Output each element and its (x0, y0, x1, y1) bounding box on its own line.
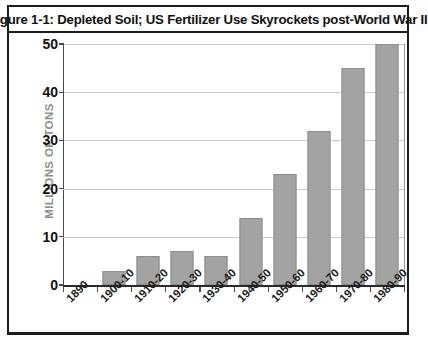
x-tick-mark-5 (234, 287, 235, 292)
y-tick-label-20: 20 (28, 182, 58, 196)
bars-group (63, 44, 404, 285)
bar-slot (63, 44, 97, 285)
bar-slot (302, 44, 336, 285)
y-tick-label-wrap: 10 (26, 230, 58, 244)
x-tick-mark-4 (199, 287, 200, 292)
y-tick-label-30: 30 (28, 133, 58, 147)
bar-1950-60[interactable] (273, 174, 296, 285)
bar-slot (370, 44, 404, 285)
x-tick-mark-6 (268, 287, 269, 292)
y-tick-label-40: 40 (28, 85, 58, 99)
y-tick-label-10: 10 (28, 230, 58, 244)
bar-1980-90[interactable] (375, 44, 398, 285)
x-tick-mark-9 (370, 287, 371, 292)
y-tick-label-wrap: 20 (26, 182, 58, 196)
x-tick-mark-2 (131, 287, 132, 292)
bar-slot (165, 44, 199, 285)
x-tick-mark-end (404, 287, 405, 292)
y-tick-label-50: 50 (28, 37, 58, 51)
y-tick-label-wrap: 0 (26, 278, 58, 292)
x-tick-mark-7 (302, 287, 303, 292)
y-tick-label-0: 0 (28, 278, 58, 292)
x-tick-mark-3 (165, 287, 166, 292)
figure-title-band: Figure 1-1: Depleted Soil; US Fertilizer… (9, 7, 407, 32)
title-divider (9, 31, 407, 33)
page-title: Figure 1-1: Depleted Soil; US Fertilizer… (0, 12, 428, 27)
bar-slot (97, 44, 131, 285)
x-tick-mark-8 (336, 287, 337, 292)
x-tick-mark-1 (97, 287, 98, 292)
y-tick-label-wrap: 30 (26, 133, 58, 147)
bar-1970-80[interactable] (341, 68, 364, 285)
bar-slot (234, 44, 268, 285)
bar-slot (268, 44, 302, 285)
bar-1960-70[interactable] (307, 131, 330, 285)
bottom-divider (9, 332, 407, 334)
x-tick-mark-0 (63, 287, 64, 292)
y-tick-label-wrap: 50 (26, 37, 58, 51)
y-tick-label-wrap: 40 (26, 85, 58, 99)
bar-slot (336, 44, 370, 285)
bar-slot (199, 44, 233, 285)
bar-slot (131, 44, 165, 285)
